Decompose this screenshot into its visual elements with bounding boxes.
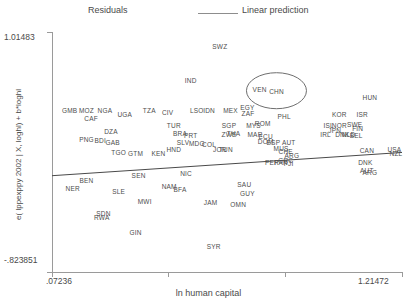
scatter-point-label: BEL — [350, 132, 363, 139]
scatter-point-label: NIC — [180, 169, 192, 176]
scatter-point-label: CHN — [269, 87, 284, 94]
scatter-point-label: TUR — [167, 122, 181, 129]
scatter-point-label: CIV — [162, 108, 173, 115]
scatter-point-label: BEN — [80, 176, 94, 183]
scatter-point-label: LSO — [190, 107, 204, 114]
scatter-point-label: MOZ — [79, 106, 94, 113]
scatter-point-label: IND — [185, 76, 197, 83]
scatter-point-label: DZA — [104, 128, 118, 135]
scatter-point-label: ISR — [357, 110, 368, 117]
scatter-point-label: KOR — [332, 110, 347, 117]
scatter-point-label: IDN — [203, 107, 215, 114]
scatter-point-label: PNG — [79, 136, 94, 143]
scatter-point-label: NER — [66, 185, 80, 192]
scatter-point-label: PHL — [277, 113, 290, 120]
scatter-point-label: SWZ — [212, 43, 227, 50]
scatter-point-label: GTM — [128, 149, 143, 156]
scatter-point-layer: SWZINDVENCHNHUNGMBMOZNGACAFUGATZACIVLSOI… — [0, 0, 417, 300]
scatter-point-label: BFA — [174, 186, 187, 193]
scatter-point-label: SGP — [222, 122, 236, 129]
scatter-point-label: SLV — [177, 138, 189, 145]
scatter-point-label: DNK — [358, 158, 372, 165]
scatter-point-label: MEX — [223, 107, 238, 114]
scatter-point-label: ZAF — [242, 109, 255, 116]
scatter-point-label: MWI — [138, 198, 152, 205]
scatter-point-label: CAN — [360, 146, 374, 153]
scatter-point-label: PAN — [274, 159, 287, 166]
scatter-point-label: ZWE — [221, 130, 236, 137]
scatter-point-label: ARG — [363, 168, 378, 175]
scatter-point-label: GIN — [129, 229, 141, 236]
scatter-point-label: TZA — [143, 106, 156, 113]
scatter-point-label: NZL — [390, 150, 403, 157]
scatter-point-label: TGO — [111, 149, 126, 156]
scatter-point-label: SAU — [237, 181, 251, 188]
scatter-point-label: SLE — [112, 188, 125, 195]
scatter-point-label: HUN — [363, 93, 378, 100]
scatter-point-label: GUY — [240, 189, 255, 196]
scatter-point-label: IRL — [320, 131, 331, 138]
scatter-point-label: BDI — [95, 137, 106, 144]
scatter-point-label: HND — [166, 145, 181, 152]
scatter-point-label: GAB — [105, 139, 119, 146]
scatter-point-label: RWA — [94, 214, 109, 221]
scatter-point-label: UGA — [117, 110, 132, 117]
scatter-point-label: CAF — [84, 115, 98, 122]
scatter-point-label: KEN — [152, 150, 166, 157]
scatter-point-label: NGA — [98, 106, 113, 113]
scatter-point-label: TUN — [219, 146, 233, 153]
scatter-point-label: VEN — [253, 85, 267, 92]
partial-regression-plot: Residuals Linear prediction 1.01483 -.82… — [0, 0, 417, 300]
scatter-point-label: SEN — [132, 171, 146, 178]
scatter-point-label: SYR — [207, 243, 221, 250]
scatter-point-label: OMN — [230, 200, 246, 207]
scatter-point-label: ROM — [255, 120, 271, 127]
scatter-point-label: JAM — [204, 199, 218, 206]
scatter-point-label: GMB — [62, 106, 77, 113]
